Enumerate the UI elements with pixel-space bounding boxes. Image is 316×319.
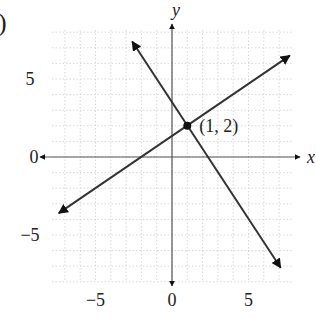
intersection-label: (1, 2) <box>199 116 238 137</box>
x-tick-label: −5 <box>86 290 105 310</box>
solution-lines <box>59 42 290 268</box>
x-axis-label: x <box>306 147 315 167</box>
line-decreasing <box>132 42 280 268</box>
graph: (1, 2)−50550−5xy <box>0 0 316 319</box>
labels: (1, 2)−50550−5xy <box>20 0 315 310</box>
y-tick-label: −5 <box>20 225 39 245</box>
y-tick-label: 5 <box>26 69 35 89</box>
x-tick-label: 5 <box>244 290 253 310</box>
y-axis-label: y <box>170 0 180 20</box>
panel-label: ) <box>0 8 7 38</box>
axes <box>40 24 300 286</box>
line-increasing <box>59 56 290 214</box>
intersection-point <box>183 122 191 130</box>
y-tick-label: 0 <box>30 147 39 167</box>
x-tick-label: 0 <box>168 290 177 310</box>
